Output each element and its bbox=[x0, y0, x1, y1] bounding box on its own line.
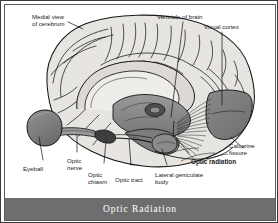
visual-cortex-region bbox=[206, 90, 252, 139]
figure-caption-text: Optic Radiation bbox=[103, 204, 177, 214]
figure-frame: Medial view of cerebrum Ventricle of bra… bbox=[0, 0, 278, 223]
label-calcarine-fissure: Calcarine fissure bbox=[229, 142, 255, 156]
label-ventricle-of-brain: Ventricle of brain bbox=[157, 13, 202, 20]
label-optic-radiation: Optic radiation bbox=[191, 158, 236, 165]
label-optic-chiasm: Optic chiasm bbox=[88, 171, 107, 185]
figure-caption-bar: Optic Radiation bbox=[5, 197, 275, 220]
brain-diagram-svg bbox=[5, 5, 275, 198]
anatomy-illustration: Medial view of cerebrum Ventricle of bra… bbox=[5, 5, 275, 198]
label-medial-view-of-cerebrum: Medial view of cerebrum bbox=[32, 13, 65, 27]
label-optic-nerve: Optic nerve bbox=[67, 157, 82, 171]
label-optic-tract: Optic tract bbox=[115, 176, 143, 183]
label-lateral-geniculate-body: Lateral geniculate body bbox=[155, 171, 203, 185]
eyeball-shape bbox=[27, 110, 62, 146]
label-eyeball: Eyeball bbox=[23, 165, 43, 172]
figure-inner-border: Medial view of cerebrum Ventricle of bra… bbox=[4, 4, 276, 221]
label-visual-cortex: Visual cortex bbox=[204, 23, 239, 30]
lateral-geniculate-body-shape bbox=[152, 134, 177, 153]
